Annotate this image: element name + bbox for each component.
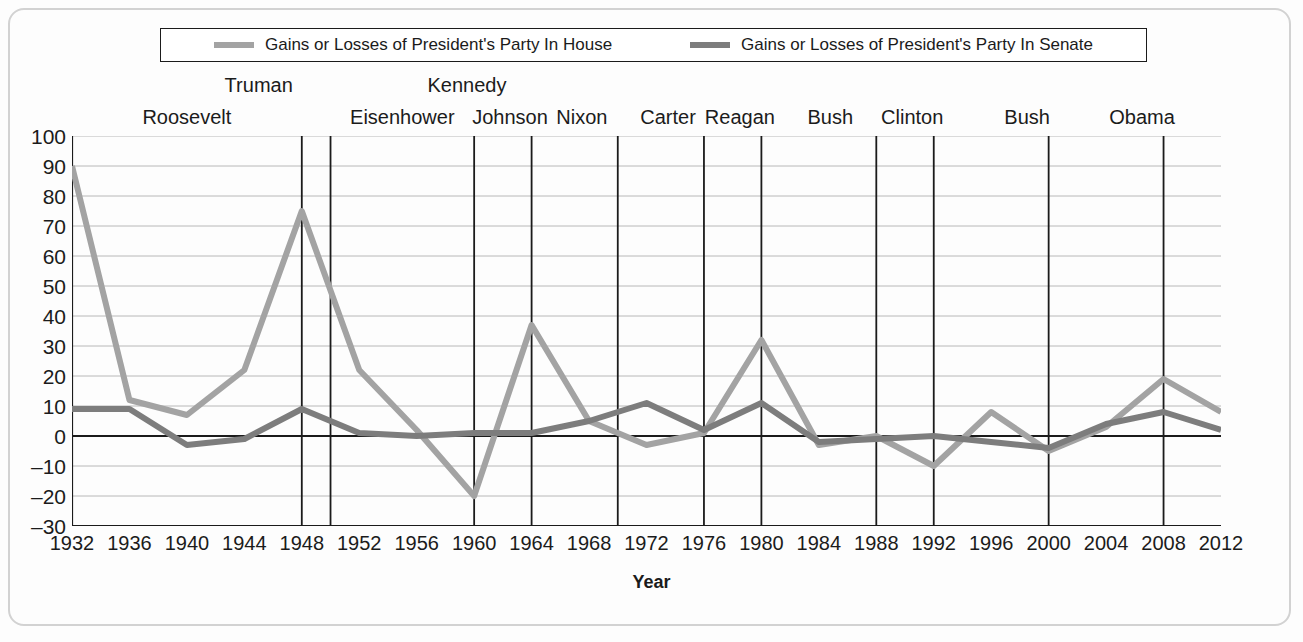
x-tick-label: 1948 <box>280 532 325 555</box>
x-tick-label: 2012 <box>1199 532 1244 555</box>
y-tick-label: –10 <box>4 456 66 477</box>
y-tick-label: 30 <box>4 336 66 357</box>
y-tick-label: 100 <box>4 126 66 147</box>
x-tick-label: 1988 <box>854 532 899 555</box>
y-tick-label: 50 <box>4 276 66 297</box>
x-tick-label: 2008 <box>1141 532 1186 555</box>
president-label: Johnson <box>472 106 548 129</box>
y-axis-tick-labels: 1009080706050403020100–10–20–30 <box>0 136 66 526</box>
x-tick-label: 1940 <box>165 532 210 555</box>
x-axis-title: Year <box>0 572 1303 593</box>
y-tick-label: 0 <box>4 426 66 447</box>
x-tick-label: 1932 <box>50 532 95 555</box>
x-tick-label: 1976 <box>682 532 727 555</box>
x-tick-label: 1980 <box>739 532 784 555</box>
x-tick-label: 1984 <box>797 532 842 555</box>
x-tick-label: 1936 <box>107 532 152 555</box>
president-label: Roosevelt <box>142 106 231 129</box>
x-tick-label: 1968 <box>567 532 612 555</box>
y-tick-label: 90 <box>4 156 66 177</box>
x-tick-label: 1956 <box>394 532 439 555</box>
president-label: Kennedy <box>427 74 506 97</box>
president-label: Eisenhower <box>350 106 455 129</box>
y-tick-label: 60 <box>4 246 66 267</box>
x-tick-label: 1952 <box>337 532 382 555</box>
president-label: Reagan <box>705 106 775 129</box>
president-label: Truman <box>225 74 293 97</box>
x-axis-tick-labels: 1932193619401944194819521956196019641968… <box>72 532 1221 562</box>
y-tick-label: 70 <box>4 216 66 237</box>
president-label: Bush <box>808 106 854 129</box>
plot-area <box>72 136 1221 526</box>
chart-canvas <box>72 136 1221 526</box>
y-tick-label: 20 <box>4 366 66 387</box>
president-label: Nixon <box>556 106 607 129</box>
x-tick-label: 1944 <box>222 532 267 555</box>
x-tick-label: 2000 <box>1026 532 1071 555</box>
president-labels: RooseveltTrumanEisenhowerKennedyJohnsonN… <box>0 0 1303 136</box>
x-tick-label: 1996 <box>969 532 1014 555</box>
y-tick-label: 40 <box>4 306 66 327</box>
x-tick-label: 1960 <box>452 532 497 555</box>
y-tick-label: –20 <box>4 486 66 507</box>
president-label: Carter <box>640 106 696 129</box>
x-tick-label: 1992 <box>912 532 957 555</box>
president-label: Clinton <box>881 106 943 129</box>
chart-figure: Gains or Losses of President's Party In … <box>0 0 1303 642</box>
y-tick-label: 10 <box>4 396 66 417</box>
president-label: Obama <box>1109 106 1175 129</box>
x-tick-label: 1972 <box>624 532 669 555</box>
x-tick-label: 1964 <box>509 532 554 555</box>
president-label: Bush <box>1004 106 1050 129</box>
x-tick-label: 2004 <box>1084 532 1129 555</box>
y-tick-label: 80 <box>4 186 66 207</box>
